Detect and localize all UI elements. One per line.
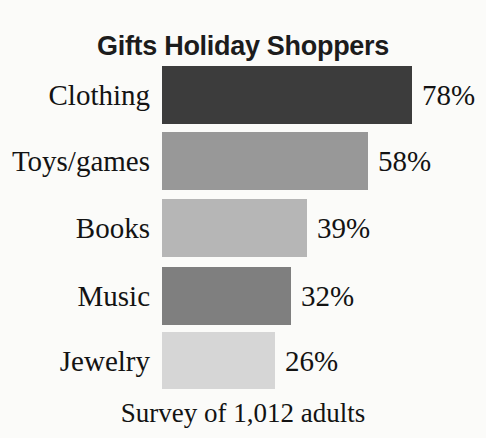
bar-label: Clothing: [0, 79, 150, 112]
bar-row: Clothing78%: [0, 66, 486, 124]
bar-row: Music32%: [0, 267, 486, 325]
bar: [162, 66, 412, 124]
bar-row: Toys/games58%: [0, 132, 486, 190]
bar-value: 32%: [301, 280, 354, 313]
bar: [162, 267, 291, 325]
bar-row: Books39%: [0, 199, 486, 257]
chart-caption: Survey of 1,012 adults: [0, 398, 486, 429]
bar-label: Toys/games: [0, 145, 150, 178]
bar: [162, 332, 275, 389]
bar-value: 78%: [422, 79, 475, 112]
bar-row: Jewelry26%: [0, 332, 486, 389]
bar-chart: Clothing78%Toys/games58%Books39%Music32%…: [0, 0, 486, 438]
bar-label: Music: [0, 280, 150, 313]
bar-value: 39%: [317, 212, 370, 245]
bar-value: 26%: [285, 344, 338, 377]
bar-label: Jewelry: [0, 344, 150, 377]
bar-value: 58%: [378, 145, 431, 178]
bar: [162, 132, 368, 190]
bar-label: Books: [0, 212, 150, 245]
bar: [162, 199, 307, 257]
